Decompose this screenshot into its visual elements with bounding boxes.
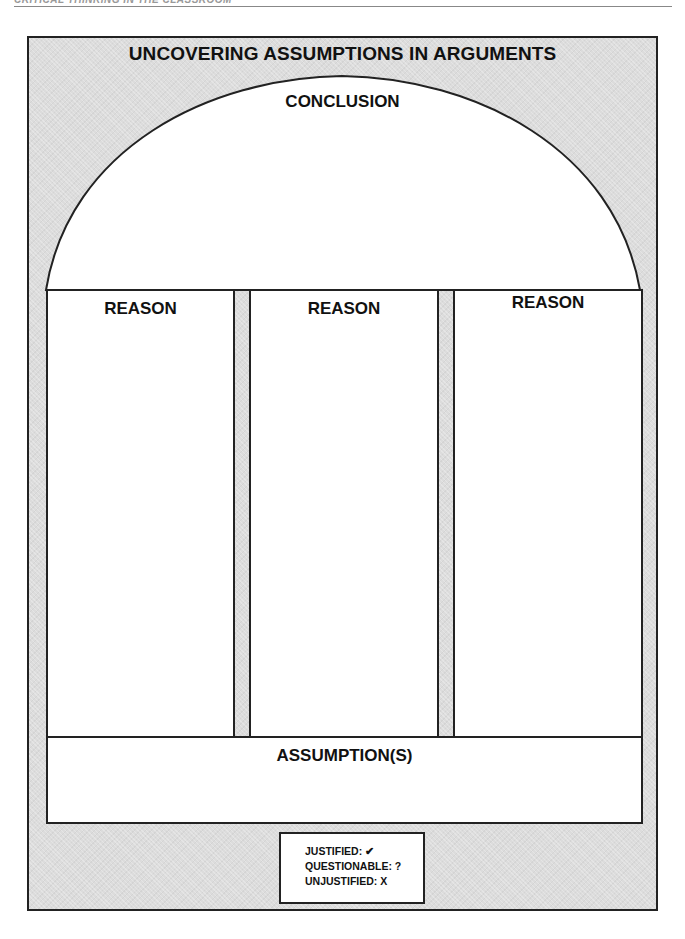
question-mark-icon: ?	[395, 860, 401, 872]
reason-box-3[interactable]: REASON	[453, 289, 643, 738]
legend-box: JUSTIFIED: ✔ QUESTIONABLE: ? UNJUSTIFIED…	[279, 832, 425, 904]
reason-box-1[interactable]: REASON	[46, 289, 235, 738]
conclusion-label: CONCLUSION	[29, 92, 656, 112]
legend-questionable-label: QUESTIONABLE:	[305, 860, 392, 872]
legend-questionable: QUESTIONABLE: ?	[305, 859, 423, 874]
x-mark-icon: X	[380, 875, 387, 887]
reason-label-1: REASON	[48, 299, 233, 319]
legend-justified: JUSTIFIED: ✔	[305, 844, 423, 859]
conclusion-arch[interactable]	[29, 38, 656, 293]
assumptions-box[interactable]: ASSUMPTION(S)	[46, 736, 643, 824]
reason-box-2[interactable]: REASON	[249, 289, 439, 738]
checkmark-icon: ✔	[365, 845, 374, 857]
page-running-header: CRITICAL THINKING IN THE CLASSROOM	[14, 0, 232, 4]
assumptions-label: ASSUMPTION(S)	[48, 746, 641, 766]
worksheet-frame: UNCOVERING ASSUMPTIONS IN ARGUMENTS CONC…	[27, 36, 658, 911]
reason-label-3: REASON	[455, 293, 641, 313]
legend-unjustified: UNJUSTIFIED: X	[305, 874, 423, 889]
legend-unjustified-label: UNJUSTIFIED:	[305, 875, 377, 887]
header-divider	[14, 6, 672, 7]
reason-label-2: REASON	[251, 299, 437, 319]
legend-justified-label: JUSTIFIED:	[305, 845, 362, 857]
